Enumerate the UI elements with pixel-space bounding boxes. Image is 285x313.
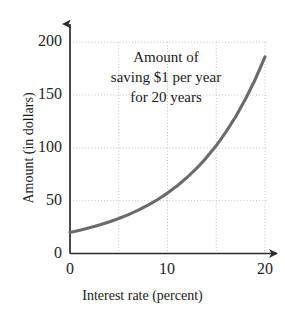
y-tick-label-0: 0: [16, 245, 62, 261]
x-tick-label-0: 0: [54, 261, 86, 277]
x-axis-title: Interest rate (percent): [0, 288, 285, 304]
annotation-line-2: saving $1 per year: [86, 68, 246, 88]
annotation-line-1: Amount of: [86, 48, 246, 68]
y-axis-title: Amount (in dollars): [21, 58, 37, 238]
x-tick-label-20: 20: [249, 261, 281, 277]
chart-figure: 200 150 100 50 0 0 10 20 Interest rate (…: [0, 0, 285, 313]
annotation-line-3: for 20 years: [86, 88, 246, 108]
y-tick-label-200: 200: [16, 33, 62, 49]
chart-annotation: Amount of saving $1 per year for 20 year…: [86, 48, 246, 107]
x-tick-label-10: 10: [151, 261, 183, 277]
